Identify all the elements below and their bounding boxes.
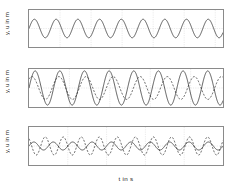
- plot-svg-bottom: [29, 127, 223, 165]
- x-axis-label: t in s: [28, 175, 224, 182]
- plot-panel-bottom: y, u in m 20-20246810 t in s: [0, 118, 229, 189]
- plot-area-middle: 20-205101520: [28, 68, 224, 108]
- figure: y, u in m 20-2020406080100120 y, u in m …: [0, 0, 229, 189]
- plot-svg-middle: [29, 69, 223, 107]
- plot-area-bottom: 20-20246810: [28, 126, 224, 166]
- y-axis-label: y, u in m: [1, 118, 13, 166]
- plot-svg-top: [29, 10, 223, 47]
- y-axis-label: y, u in m: [1, 58, 13, 106]
- plot-panel-top: y, u in m 20-2020406080100120: [0, 0, 229, 64]
- plot-area-top: 20-2020406080100120: [28, 9, 224, 48]
- y-axis-label: y, u in m: [1, 0, 13, 48]
- plot-panel-middle: y, u in m 20-205101520: [0, 58, 229, 124]
